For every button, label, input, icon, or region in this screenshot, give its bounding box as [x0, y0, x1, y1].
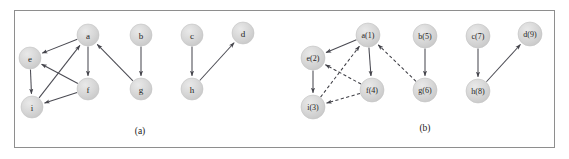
node-label: a(1): [362, 31, 375, 40]
node-label: f(4): [366, 86, 378, 95]
graph-edge-i-to-a: [321, 46, 360, 97]
node-label: a: [86, 31, 90, 41]
node-label: g(6): [418, 86, 432, 95]
node-label: e(2): [307, 54, 320, 63]
graph-node-panel-b-d[interactable]: d(9): [518, 22, 542, 46]
graph-edge-a-to-e: [326, 40, 356, 53]
graph-node-panel-b-g[interactable]: g(6): [413, 78, 437, 102]
graph-node-panel-b-c[interactable]: c(7): [466, 24, 490, 48]
graph-edge-g-to-a: [97, 44, 133, 80]
graph-node-panel-b-a[interactable]: a(1): [356, 23, 380, 47]
graph-canvas: abcdefghia(1)b(5)c(7)d(9)e(2)f(4)g(6)h(8…: [0, 0, 569, 159]
graph-node-panel-a-d[interactable]: d: [232, 22, 254, 44]
node-label: i(3): [307, 103, 319, 112]
panel-caption-panel-a: (a): [135, 126, 146, 137]
graph-node-panel-a-e[interactable]: e: [19, 47, 41, 69]
graph-node-panel-a-h[interactable]: h: [181, 78, 203, 100]
graph-node-panel-a-a[interactable]: a: [77, 24, 99, 46]
graph-node-panel-b-b[interactable]: b(5): [413, 24, 437, 48]
graph-edge-i-to-a: [39, 45, 80, 98]
captions-layer: (a)(b): [135, 123, 431, 137]
nodes-layer: abcdefghia(1)b(5)c(7)d(9)e(2)f(4)g(6)h(8…: [19, 22, 542, 119]
graph-node-panel-a-c[interactable]: c: [181, 24, 203, 46]
figure-root: abcdefghia(1)b(5)c(7)d(9)e(2)f(4)g(6)h(8…: [0, 0, 569, 159]
graph-edge-e-to-i: [30, 69, 31, 93]
node-label: g: [139, 85, 144, 95]
graph-node-panel-a-g[interactable]: g: [130, 78, 152, 100]
graph-node-panel-b-f[interactable]: f(4): [360, 78, 384, 102]
graph-node-panel-b-h[interactable]: h(8): [466, 79, 490, 103]
graph-edge-a-to-f: [369, 47, 371, 75]
node-label: b: [139, 31, 144, 41]
node-label: c: [190, 31, 194, 41]
graph-edge-g-to-a: [378, 45, 416, 81]
graph-node-panel-a-i[interactable]: i: [21, 96, 43, 118]
node-label: h(8): [471, 87, 485, 96]
graph-edge-f-to-e: [325, 65, 361, 84]
graph-edge-f-to-i: [327, 93, 360, 103]
graph-edge-f-to-i: [45, 93, 77, 103]
graph-node-panel-a-b[interactable]: b: [130, 24, 152, 46]
node-label: d: [241, 29, 246, 39]
node-label: b(5): [418, 32, 432, 41]
graph-edge-f-to-e: [42, 64, 78, 83]
node-label: f: [87, 85, 90, 95]
graph-edge-h-to-d: [200, 43, 234, 81]
node-label: d(9): [523, 30, 537, 39]
graph-node-panel-b-i[interactable]: i(3): [301, 95, 325, 119]
graph-edge-a-to-e: [42, 39, 77, 53]
graph-node-panel-a-f[interactable]: f: [77, 78, 99, 100]
node-label: e: [28, 54, 32, 64]
node-label: c(7): [472, 32, 485, 41]
edges-layer: [30, 39, 520, 103]
node-label: h: [190, 85, 195, 95]
panel-caption-panel-b: (b): [419, 123, 430, 134]
graph-node-panel-b-e[interactable]: e(2): [301, 46, 325, 70]
graph-edge-h-to-d: [486, 44, 520, 81]
